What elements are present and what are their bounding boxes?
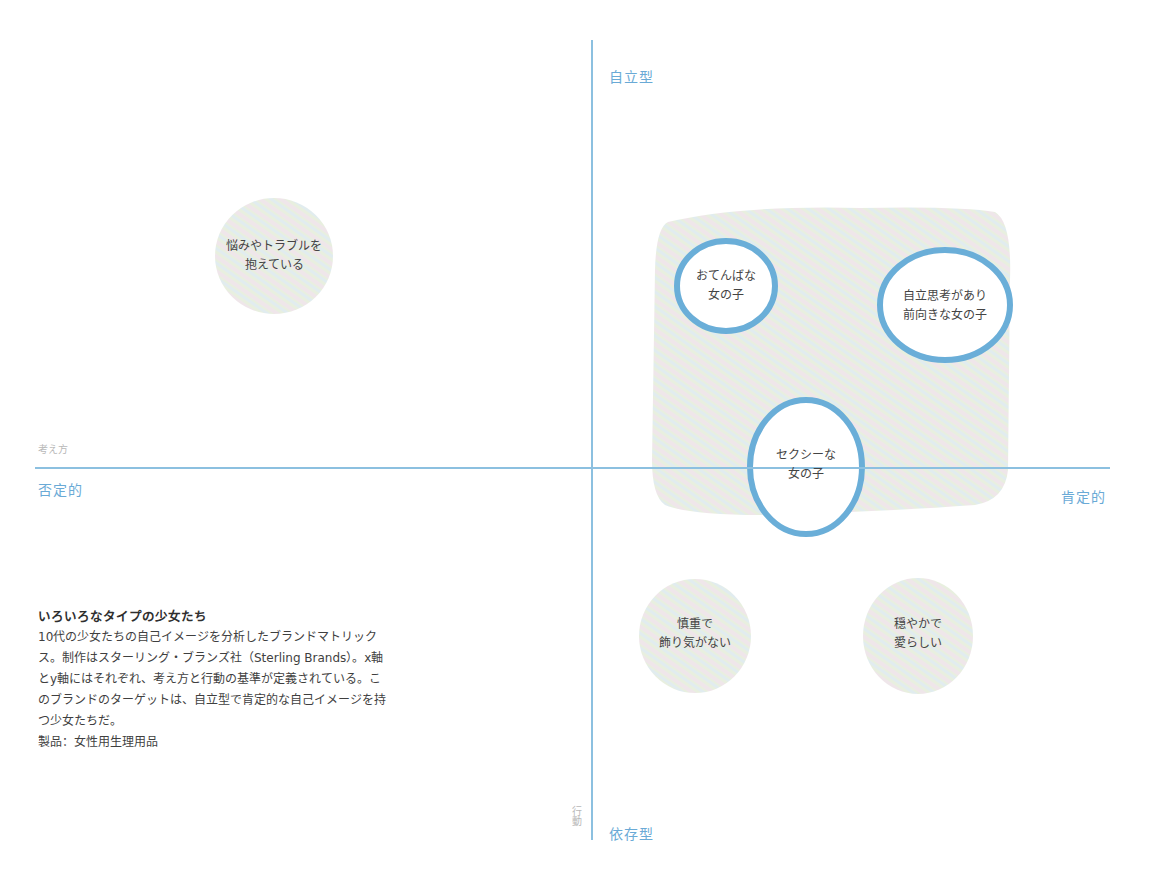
node-gentle: 穏やかで 愛らしい (894, 615, 942, 653)
node-line: 悩みやトラブルを (226, 237, 322, 256)
node-line: 自立思考があり (903, 287, 987, 306)
node-line: 女の子 (696, 286, 756, 305)
node-independent: 自立思考があり 前向きな女の子 (903, 287, 987, 325)
y-axis-bottom-label: 依存型 (609, 823, 654, 843)
node-line: 穏やかで (894, 615, 942, 634)
y-axis-name: 行動 (568, 806, 583, 826)
node-cautious: 慎重で 飾り気がない (659, 615, 731, 653)
x-axis-left-label: 否定的 (38, 479, 83, 499)
description: いろいろなタイプの少女たち 10代の少女たちの自己イメージを分析したブランドマト… (38, 606, 388, 753)
x-axis-right-label: 肯定的 (1061, 486, 1106, 506)
description-title: いろいろなタイプの少女たち (38, 606, 388, 627)
description-body: 10代の少女たちの自己イメージを分析したブランドマトリックス。制作はスターリング… (38, 627, 388, 732)
node-line: 前向きな女の子 (903, 306, 987, 325)
y-axis-line (591, 40, 593, 840)
node-line: 女の子 (776, 465, 836, 484)
node-line: 抱えている (226, 256, 322, 275)
node-tomboy: おてんばな 女の子 (696, 267, 756, 305)
node-line: セクシーな (776, 446, 836, 465)
node-line: 飾り気がない (659, 634, 731, 653)
x-axis-line (35, 467, 1110, 469)
description-product: 製品：女性用生理用品 (38, 732, 388, 753)
node-line: おてんばな (696, 267, 756, 286)
node-line: 慎重で (659, 615, 731, 634)
node-sexy: セクシーな 女の子 (776, 446, 836, 484)
node-troubled: 悩みやトラブルを 抱えている (226, 237, 322, 275)
x-axis-name: 考え方 (38, 441, 68, 456)
node-line: 愛らしい (894, 634, 942, 653)
y-axis-top-label: 自立型 (609, 66, 654, 86)
